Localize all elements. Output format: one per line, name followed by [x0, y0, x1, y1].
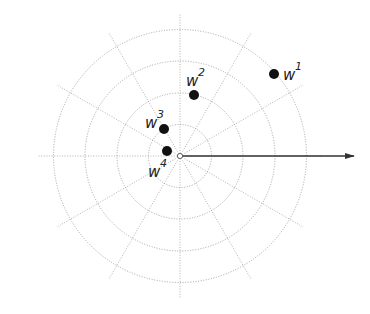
radial-grid-line	[180, 156, 303, 227]
point-label-superscript: 3	[157, 108, 164, 121]
point-label-superscript: 2	[198, 66, 205, 79]
data-point-dot	[162, 146, 172, 156]
point-w3: w3	[145, 108, 169, 134]
radial-grid-line	[109, 156, 180, 279]
data-point-dot	[189, 90, 199, 100]
point-label-superscript: 1	[295, 60, 302, 73]
polar-grid-canvas: w1w2w3w4	[0, 0, 370, 314]
point-label-superscript: 4	[160, 157, 167, 170]
data-point-dot	[159, 124, 169, 134]
data-point-dot	[269, 69, 279, 79]
origin-marker	[177, 153, 182, 158]
point-w4: w4	[148, 146, 172, 181]
polar-diagram: w1w2w3w4	[0, 0, 370, 314]
point-w2: w2	[186, 66, 205, 100]
point-w1: w1	[269, 60, 302, 84]
